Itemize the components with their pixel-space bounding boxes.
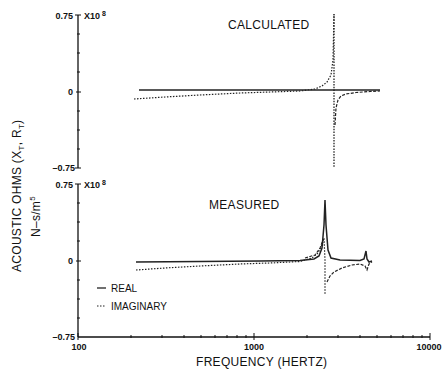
y-axis-units: N–s/m5 bbox=[28, 196, 43, 237]
calculated-panel: 0.75 X108 0 –0.75 CALCULATED bbox=[52, 10, 380, 173]
top-y-tick-neg075: –0.75 bbox=[52, 163, 75, 173]
x-tick-10000: 10000 bbox=[416, 342, 441, 352]
measured-panel: 0.75 X108 0 –0.75 MEASURED bbox=[52, 179, 441, 369]
svg-text:ACOUSTIC OHMS (XT, RT): ACOUSTIC OHMS (XT, RT) bbox=[10, 120, 26, 272]
bottom-y-tick-075: 0.75 bbox=[55, 180, 73, 190]
top-y-tick-075: 0.75 bbox=[55, 11, 73, 21]
top-y-tick-0: 0 bbox=[68, 87, 73, 97]
top-multiplier: X108 bbox=[84, 10, 106, 21]
bottom-panel-title: MEASURED bbox=[209, 198, 279, 212]
bottom-y-tick-0: 0 bbox=[68, 256, 73, 266]
legend: REAL IMAGINARY bbox=[97, 283, 167, 312]
impedance-chart-figure: ACOUSTIC OHMS (XT, RT) N–s/m5 0.75 X108 … bbox=[0, 0, 448, 374]
x-axis-title: FREQUENCY (HERTZ) bbox=[196, 355, 327, 369]
bottom-y-tick-neg075: –0.75 bbox=[52, 332, 75, 342]
svg-text:N–s/m5: N–s/m5 bbox=[28, 196, 43, 237]
x-tick-1000: 1000 bbox=[244, 342, 264, 352]
top-panel-title: CALCULATED bbox=[228, 18, 309, 32]
x-tick-100: 100 bbox=[71, 342, 86, 352]
y-axis-title: ACOUSTIC OHMS (XT, RT) bbox=[10, 120, 26, 272]
legend-real-label: REAL bbox=[111, 283, 138, 294]
legend-imaginary-label: IMAGINARY bbox=[111, 301, 167, 312]
bottom-multiplier: X108 bbox=[84, 179, 106, 190]
measured-imaginary-series bbox=[136, 238, 325, 294]
